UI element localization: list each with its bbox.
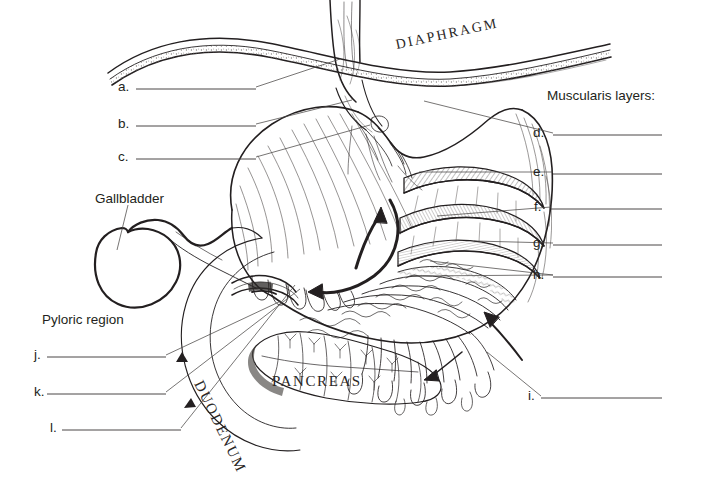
pyloric-region-label: Pyloric region xyxy=(42,313,124,327)
figure-canvas: Muscularis layers: Gallbladder Pyloric r… xyxy=(0,0,706,496)
leader-line-l xyxy=(181,285,295,428)
blank-letter-k: k. xyxy=(34,385,45,399)
blank-letter-l: l. xyxy=(50,421,57,435)
blank-letter-e: e. xyxy=(533,165,544,179)
h-second-branch xyxy=(412,275,553,276)
leader-line-c xyxy=(256,125,370,157)
blank-letter-c: c. xyxy=(118,150,129,164)
label-leader-overlay xyxy=(0,0,706,496)
blank-letter-g: g. xyxy=(533,236,544,250)
pancreas-label: PANCREAS xyxy=(272,374,362,389)
leader-line-b xyxy=(256,100,352,124)
gallbladder-label: Gallbladder xyxy=(95,192,164,206)
blank-letter-j: j. xyxy=(34,348,41,362)
muscularis-layers-heading: Muscularis layers: xyxy=(547,89,655,103)
gallbladder-leader xyxy=(117,205,128,250)
blank-letter-i: i. xyxy=(528,389,535,403)
leader-line-a xyxy=(256,59,340,87)
blank-letter-d: d. xyxy=(533,126,544,140)
blank-letter-h: h. xyxy=(533,268,544,282)
blank-letter-f: f. xyxy=(534,200,542,214)
blank-letter-a: a. xyxy=(118,80,129,94)
leader-line-j xyxy=(166,301,281,355)
blank-letter-b: b. xyxy=(118,117,129,131)
